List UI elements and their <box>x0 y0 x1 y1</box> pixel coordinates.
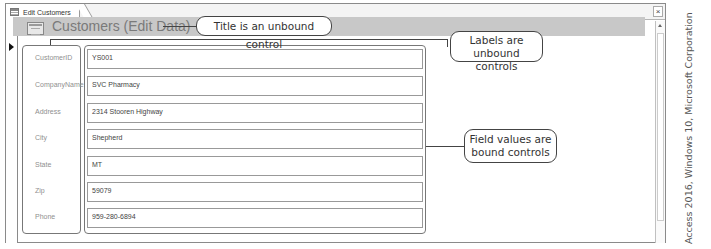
city-value: Shepherd <box>92 134 122 141</box>
phone-value: 959-280-6894 <box>92 213 136 220</box>
customerid-value: YS001 <box>92 54 113 61</box>
image-credit: Access 2016, Windows 10, Microsoft Corpo… <box>683 12 694 244</box>
label-state: State <box>35 161 51 168</box>
tab-label: Edit Customers <box>23 9 71 16</box>
title-leader-line <box>163 26 197 27</box>
zip-value: 59079 <box>92 187 111 194</box>
zip-field[interactable]: 59079 <box>87 182 423 202</box>
state-field[interactable]: MT <box>87 156 423 176</box>
vertical-scrollbar[interactable] <box>655 21 665 243</box>
label-zip: Zip <box>35 187 45 194</box>
scroll-up-arrow-icon[interactable] <box>658 24 662 27</box>
companyname-field[interactable]: SVC Pharmacy <box>87 76 423 96</box>
label-companyname: CompanyName <box>35 81 84 88</box>
labels-callout-line1: Labels are <box>451 34 542 47</box>
label-address: Address <box>35 108 61 115</box>
phone-field[interactable]: 959-280-6894 <box>87 208 423 228</box>
address-value: 2314 Stooren Highway <box>92 108 163 115</box>
labels-column: CustomerID CompanyName Address City Stat… <box>22 45 81 234</box>
labels-leader-tick <box>50 39 51 45</box>
labels-callout-line2: unbound controls <box>451 47 542 73</box>
values-leader-line <box>426 146 464 147</box>
close-button[interactable]: × <box>653 6 663 17</box>
label-phone: Phone <box>35 213 55 220</box>
values-callout: Field values are bound controls <box>464 129 557 163</box>
scroll-track[interactable] <box>657 33 664 221</box>
form-icon <box>10 8 19 16</box>
city-field[interactable]: Shepherd <box>87 129 423 149</box>
state-value: MT <box>92 161 102 168</box>
labels-leader-connector <box>447 39 448 47</box>
label-customerid: CustomerID <box>35 54 72 61</box>
record-selector[interactable] <box>6 21 18 243</box>
label-city: City <box>35 134 47 141</box>
labels-callout: Labels are unbound controls <box>450 31 543 62</box>
address-field[interactable]: 2314 Stooren Highway <box>87 103 423 123</box>
companyname-value: SVC Pharmacy <box>92 81 140 88</box>
values-callout-line2: bound controls <box>465 146 556 159</box>
current-record-arrow-icon <box>9 43 14 51</box>
values-column: YS001 SVC Pharmacy 2314 Stooren Highway … <box>84 45 426 234</box>
labels-leader-line <box>50 39 448 40</box>
title-callout: Title is an unbound control <box>196 16 332 36</box>
values-callout-line1: Field values are <box>465 133 556 146</box>
form-title-icon <box>27 22 44 35</box>
